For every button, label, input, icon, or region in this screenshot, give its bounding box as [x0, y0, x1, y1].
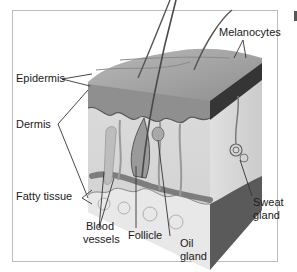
label-blood-vessels-line2: vessels [83, 233, 117, 246]
epidermis-leader [62, 74, 92, 86]
label-oil-gland: Oil gland [180, 237, 207, 263]
label-sweat-gland: Sweat gland [253, 196, 284, 222]
label-blood-vessels-line1: Blood [83, 220, 117, 233]
label-blood-vessels: Blood vessels [83, 220, 117, 246]
label-oil-gland-line1: Oil [180, 237, 207, 250]
label-sweat-gland-line1: Sweat [253, 196, 284, 209]
label-sweat-gland-line2: gland [253, 209, 284, 222]
dermis-leader [58, 90, 88, 198]
label-epidermis: Epidermis [16, 72, 65, 85]
label-fatty-tissue: Fatty tissue [16, 190, 72, 203]
label-oil-gland-line2: gland [180, 250, 207, 263]
label-follicle: Follicle [128, 229, 162, 242]
label-melanocytes: Melanocytes [219, 26, 281, 39]
label-dermis: Dermis [16, 118, 51, 131]
